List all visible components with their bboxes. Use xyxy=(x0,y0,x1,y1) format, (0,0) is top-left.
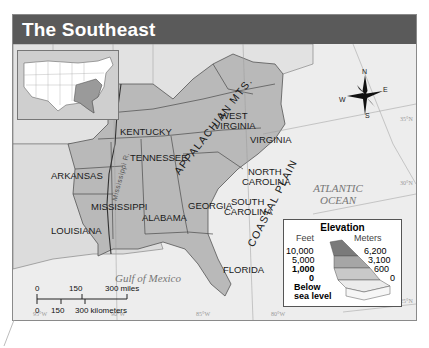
ocean-label-1: ATLANTIC xyxy=(303,183,373,194)
scale-km-0: 0 xyxy=(35,307,39,315)
gulf-label: Gulf of Mexico xyxy=(115,273,181,284)
state-label-arkansas: ARKANSAS xyxy=(51,171,103,181)
scale-miles-0: 0 xyxy=(35,285,39,293)
scale-miles-300: 300 miles xyxy=(105,285,139,293)
map-header: The Southeast xyxy=(13,15,416,44)
state-label-mississippi: MISSISSIPPI xyxy=(91,202,148,212)
scale-km-300: 300 kilometers xyxy=(75,307,127,315)
compass-w: W xyxy=(339,95,346,105)
compass-rose: N S W E xyxy=(343,69,387,117)
longitude-85w: 85°W xyxy=(196,311,210,317)
state-label-alabama: ALABAMA xyxy=(142,213,187,223)
legend-meters-600: 600 xyxy=(374,265,389,274)
latitude-30n: 30°N xyxy=(400,180,413,186)
scale-miles-150: 150 xyxy=(69,285,82,293)
stray-mark xyxy=(0,318,20,348)
state-label-kentucky: KENTUCKY xyxy=(120,127,172,137)
compass-n: N xyxy=(362,67,367,77)
map-title: The Southeast xyxy=(22,19,156,41)
legend-feet-label: Feet xyxy=(296,234,314,243)
legend-title: Elevation xyxy=(284,222,401,233)
state-label-virginia: VIRGINIA xyxy=(250,135,292,145)
map-frame: The Southeast xyxy=(12,14,417,321)
state-label-louisiana: LOUISIANA xyxy=(51,226,102,236)
latitude-35n: 35°N xyxy=(400,116,413,122)
ocean-label-2: OCEAN xyxy=(303,195,373,206)
legend-meters-0: 0 xyxy=(390,274,395,283)
scale-bar: 0 150 300 miles 0 150 300 kilometers xyxy=(31,285,131,321)
scale-ruler xyxy=(31,294,131,306)
compass-s: S xyxy=(365,111,370,121)
state-label-florida: FLORIDA xyxy=(223,265,264,275)
state-label-georgia: GEORGIA xyxy=(188,201,232,211)
compass-e: E xyxy=(383,85,388,95)
longitude-80w: 80°W xyxy=(271,311,285,317)
elevation-legend: Elevation Feet Meters 10,000 5,000 1,000… xyxy=(283,219,402,307)
inset-us-map xyxy=(17,50,119,120)
scale-km-150: 150 xyxy=(51,307,64,315)
legend-below-2: sea level xyxy=(294,292,332,301)
